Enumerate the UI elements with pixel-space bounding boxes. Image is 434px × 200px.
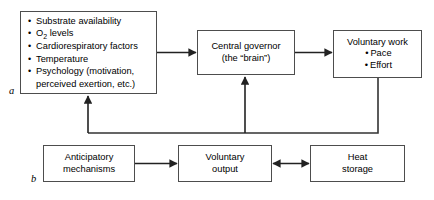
factor-item-label: Cardiorespiratory factors (36, 41, 138, 51)
heat-storage-line-2: storage (342, 164, 373, 175)
voluntary-work-bullet-label: Effort (370, 60, 392, 70)
panel-label-b: b (31, 173, 36, 184)
factor-item: •O2 levels (28, 27, 74, 40)
factor-item: •Temperature (28, 53, 88, 66)
factor-item: •Substrate availability (28, 15, 121, 28)
bullet-icon: • (28, 27, 36, 40)
factor-item-label-tail: levels (47, 28, 73, 38)
voluntary-work-heading: Voluntary work (347, 37, 408, 49)
factor-item-label: Temperature (36, 54, 88, 64)
bullet-icon: • (28, 65, 36, 78)
bullet-icon: • (28, 53, 36, 66)
voluntary-work-bullet-label: Pace (370, 48, 391, 58)
anticipatory-line-2: mechanisms (63, 164, 115, 175)
bullet-icon: • (363, 60, 370, 72)
factor-item-label: Psychology (motivation, (36, 66, 134, 76)
voluntary-work-bullet: •Effort (363, 60, 392, 72)
central-governor-line-2: (the “brain”) (222, 53, 271, 64)
diagram-root: •Substrate availability •O2 levels •Card… (0, 0, 434, 200)
factor-item: •Cardiorespiratory factors (28, 40, 138, 53)
bullet-icon: • (28, 40, 36, 53)
factor-item: •Psychology (motivation, (28, 65, 134, 78)
node-central-governor: Central governor (the “brain”) (197, 30, 295, 75)
bullet-icon: • (28, 15, 36, 28)
node-voluntary-work: Voluntary work •Pace •Effort (333, 30, 422, 78)
anticipatory-line-1: Anticipatory (65, 152, 114, 163)
heat-storage-line-1: Heat (348, 152, 368, 163)
node-voluntary-output: Voluntary output (178, 145, 272, 182)
node-heat-storage: Heat storage (310, 145, 405, 182)
panel-label-a: a (9, 85, 14, 96)
voluntary-output-line-2: output (212, 164, 238, 175)
central-governor-line-1: Central governor (211, 41, 280, 52)
factor-item-continuation: perceived exertion, etc.) (28, 78, 135, 91)
voluntary-output-line-1: Voluntary (206, 152, 245, 163)
factor-item-label: Substrate availability (36, 16, 121, 26)
voluntary-work-bullet: •Pace (363, 48, 391, 60)
node-afferent-factors: •Substrate availability •O2 levels •Card… (20, 11, 157, 94)
node-anticipatory-mechanisms: Anticipatory mechanisms (43, 145, 135, 182)
